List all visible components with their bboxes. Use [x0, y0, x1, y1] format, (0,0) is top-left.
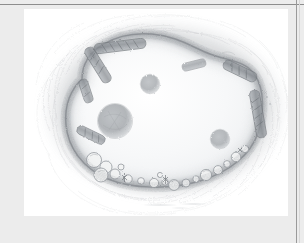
blob-left — [98, 104, 133, 139]
top-divider-rule — [0, 4, 304, 5]
blob-right — [210, 129, 230, 149]
right-divider-rule — [296, 0, 297, 243]
right-divider-rule-secondary — [299, 0, 300, 243]
cell-diagram-svg — [24, 9, 288, 216]
cell-illustration: Graphite pencil drawing of a rounded kid… — [24, 9, 288, 216]
blob-top — [140, 74, 160, 94]
page-root: Graphite pencil drawing of a rounded kid… — [0, 0, 304, 243]
figure-panel: Graphite pencil drawing of a rounded kid… — [24, 9, 288, 216]
